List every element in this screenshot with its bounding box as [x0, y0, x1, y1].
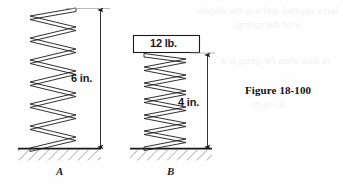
part-label-a: A — [56, 165, 63, 177]
figure-caption: Figure 18-100 — [245, 84, 311, 96]
spring-a-coils — [30, 8, 76, 152]
spring-b-load-label: 12 lb. — [150, 37, 177, 49]
figure-18-100: have applied and x is the displac y of t… — [0, 0, 343, 185]
part-label-b: B — [167, 165, 174, 177]
spring-b-dimension-label: 4 in. — [178, 96, 199, 108]
ground-hatch-b — [130, 149, 212, 160]
ground-hatch-a — [18, 149, 101, 160]
spring-a-dimension-label: 6 in. — [71, 72, 92, 84]
